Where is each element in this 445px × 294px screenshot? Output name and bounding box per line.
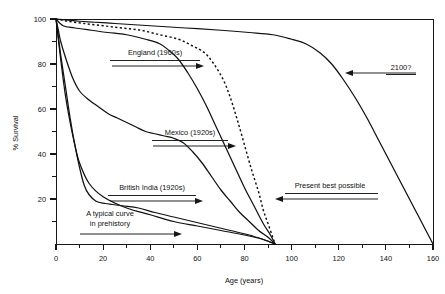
x-tick-label: 20 [99,254,107,263]
y-tick-label: 40 [38,150,46,159]
annotation-2100: 2100? [345,63,416,76]
y-tick-label: 100 [34,15,46,24]
annotation-prehistory-arrowhead [174,231,182,237]
x-tick-label: 40 [146,254,154,263]
x-tick-label: 80 [240,254,248,263]
annotation-england: England (1960s) [110,48,204,69]
x-tick-label: 120 [333,254,345,263]
annotation-mexico-arrowhead [228,143,236,149]
y-tick-label: 80 [38,60,46,69]
annotation-british-india: British India (1920s) [108,183,203,204]
chart-canvas: 020406080100120140160 20406080100 Age (y… [0,0,445,294]
x-tick-label: 140 [380,254,392,263]
annotation-mexico-label: Mexico (1920s) [165,128,216,137]
annotation-mexico: Mexico (1920s) [152,128,236,149]
x-axis-tick-labels: 020406080100120140160 [54,254,439,263]
x-tick-label: 0 [54,254,58,263]
annotation-2100-label: 2100? [391,63,412,72]
annotation-present-best-possible: Present best possible [275,181,378,202]
y-axis-tick-labels: 20406080100 [34,15,46,204]
x-tick-label: 60 [193,254,201,263]
annotation-british-india-label: British India (1920s) [119,183,185,192]
x-axis-title: Age (years) [225,276,263,285]
survival-curve-figure: 020406080100120140160 20406080100 Age (y… [0,0,445,294]
y-tick-label: 60 [38,105,46,114]
annotation-present-best-arrowhead [275,196,283,202]
x-axis-ticks [56,244,433,250]
x-tick-label: 100 [285,254,297,263]
annotation-prehistory-label-line1: A typical curve [86,209,134,218]
annotation-england-label: England (1960s) [128,48,182,57]
annotation-prehistory: A typical curve in prehistory [80,209,182,237]
y-axis-ticks [50,19,56,222]
y-axis-title: % Survival [11,115,20,150]
annotation-2100-arrowhead [345,70,353,76]
annotation-prehistory-label-line2: in prehistory [90,219,131,228]
annotation-british-india-arrowhead [195,198,203,204]
x-tick-label: 160 [427,254,439,263]
y-tick-label: 20 [38,195,46,204]
annotation-england-arrowhead [196,63,204,69]
annotation-present-best-label: Present best possible [295,181,366,190]
